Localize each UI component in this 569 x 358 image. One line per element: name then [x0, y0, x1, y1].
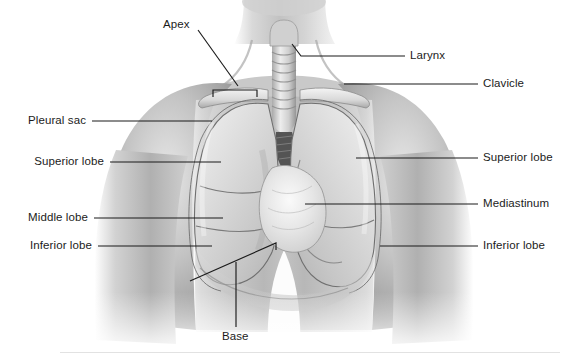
- bottom-rule: [60, 352, 560, 353]
- label-middle-lobe: Middle lobe: [0, 211, 88, 224]
- label-clavicle: Clavicle: [483, 77, 524, 90]
- thorax-illustration: [0, 0, 569, 358]
- label-mediastinum: Mediastinum: [483, 197, 549, 210]
- label-inferior-lobe-left: Inferior lobe: [0, 239, 92, 252]
- label-pleural-sac: Pleural sac: [0, 114, 86, 127]
- label-superior-lobe-left: Superior lobe: [0, 155, 104, 168]
- label-apex: Apex: [163, 18, 190, 31]
- label-larynx: Larynx: [410, 49, 445, 62]
- label-superior-lobe-right: Superior lobe: [483, 151, 553, 164]
- label-inferior-lobe-right: Inferior lobe: [483, 239, 545, 252]
- larynx-structure: [270, 20, 298, 46]
- label-base: Base: [222, 330, 249, 343]
- anatomy-figure: Apex Larynx Clavicle Pleural sac Superio…: [0, 0, 569, 358]
